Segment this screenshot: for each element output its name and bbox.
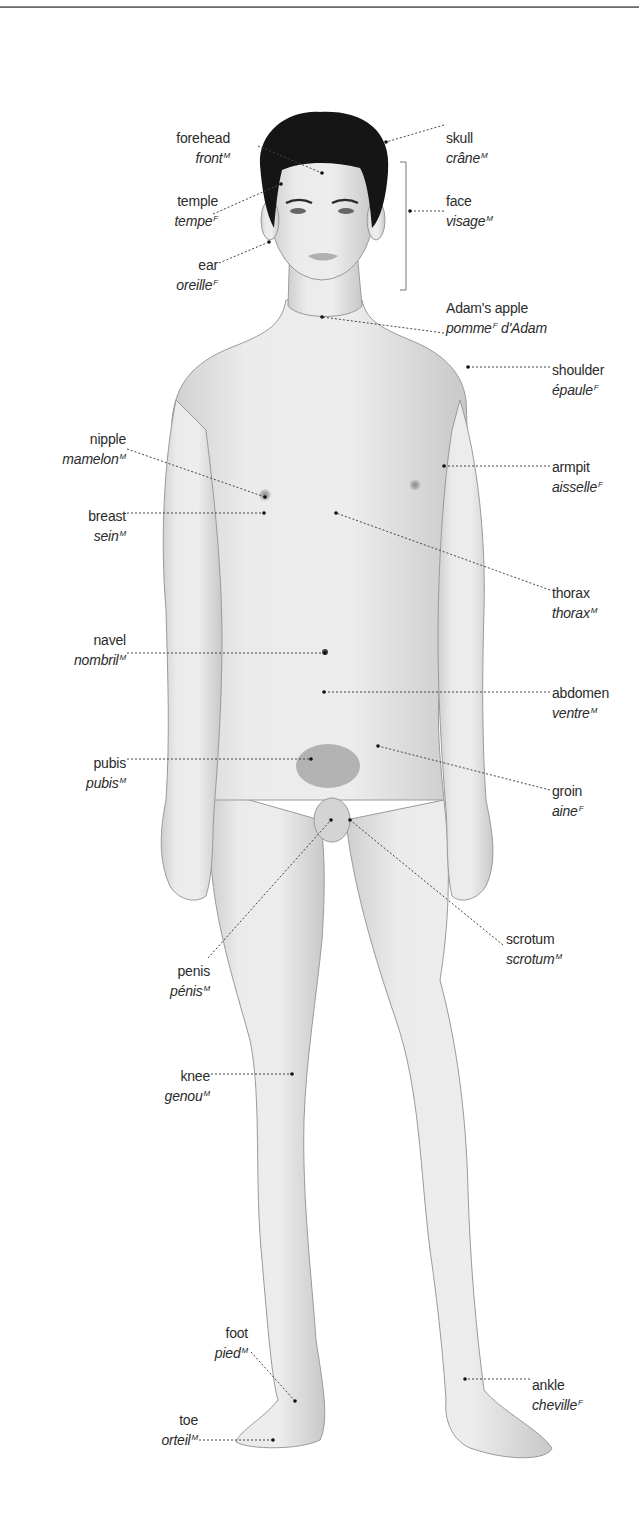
english-term: nipple: [62, 431, 126, 448]
french-term: visageM: [446, 210, 493, 230]
english-term: groin: [552, 783, 583, 800]
point-scrotum: [348, 818, 352, 822]
leader-line-skull: [386, 125, 444, 142]
english-term: Adam's apple: [446, 300, 547, 317]
gender-marker: M: [120, 452, 126, 461]
gender-marker: M: [120, 653, 126, 662]
point-armpit: [442, 464, 446, 468]
english-term: temple: [174, 193, 218, 210]
leader-line-ear: [219, 242, 269, 263]
french-term: pubisM: [86, 772, 126, 792]
french-term: oreilleF: [176, 274, 218, 294]
gender-marker: M: [204, 984, 210, 993]
label-forehead: forehead frontM: [176, 130, 230, 167]
label-ear: ear oreilleF: [176, 257, 218, 294]
label-scrotum: scrotum scrotumM: [506, 931, 562, 968]
label-groin: groin aineF: [552, 783, 583, 820]
point-nipple: [263, 495, 267, 499]
gender-marker: M: [192, 1433, 198, 1442]
label-ankle: ankle chevilleF: [532, 1377, 583, 1414]
gender-marker: F: [213, 214, 218, 223]
english-term: penis: [170, 963, 210, 980]
english-term: breast: [88, 508, 126, 525]
point-penis: [329, 818, 333, 822]
gender-marker: M: [224, 151, 230, 160]
english-term: pubis: [86, 755, 126, 772]
french-term: orteilM: [161, 1429, 198, 1449]
english-term: armpit: [552, 459, 603, 476]
french-term: tempeF: [174, 210, 218, 230]
gender-marker: M: [120, 529, 126, 538]
gender-marker: F: [578, 1398, 583, 1407]
french-term: mamelonM: [62, 448, 126, 468]
label-nipple: nipple mamelonM: [62, 431, 126, 468]
gender-marker: F: [594, 383, 599, 392]
left-leg-shape: [346, 800, 552, 1458]
left-arm-shape: [438, 400, 493, 900]
english-term: thorax: [552, 585, 597, 602]
french-term: aineF: [552, 800, 583, 820]
label-toe: toe orteilM: [161, 1412, 198, 1449]
gender-marker: M: [555, 952, 561, 961]
pubic-hair: [296, 744, 360, 788]
point-abdomen: [322, 690, 326, 694]
english-term: toe: [161, 1412, 198, 1429]
label-knee: knee genouM: [165, 1068, 210, 1105]
french-term: pénisM: [170, 980, 210, 1000]
french-term: frontM: [176, 147, 230, 167]
gender-marker: M: [591, 706, 597, 715]
gender-marker: M: [591, 606, 597, 615]
face-bracket: [400, 162, 406, 290]
gender-marker: F: [579, 804, 584, 813]
point-face: [408, 209, 412, 213]
point-breast: [262, 511, 266, 515]
label-breast: breast seinM: [88, 508, 126, 545]
gender-marker: M: [242, 1346, 248, 1355]
left-eye: [338, 208, 354, 214]
french-term: seinM: [88, 525, 126, 545]
label-thorax: thorax thoraxM: [552, 585, 597, 622]
point-ear: [267, 240, 271, 244]
french-term: crâneM: [446, 147, 488, 167]
point-thorax: [334, 511, 338, 515]
point-foot: [293, 1399, 297, 1403]
label-abdomen: abdomen ventreM: [552, 685, 609, 722]
french-term: épauleF: [552, 379, 604, 399]
french-term: aisselleF: [552, 476, 603, 496]
label-armpit: armpit aisselleF: [552, 459, 603, 496]
point-groin: [376, 744, 380, 748]
english-term: navel: [74, 632, 126, 649]
label-penis: penis pénisM: [170, 963, 210, 1000]
english-term: knee: [165, 1068, 210, 1085]
point-shoulder: [466, 365, 470, 369]
french-term: scrotumM: [506, 948, 562, 968]
point-skull: [384, 140, 388, 144]
english-term: scrotum: [506, 931, 562, 948]
french-term: chevilleF: [532, 1394, 583, 1414]
french-term: pommeF d'Adam: [446, 317, 547, 337]
french-term: thoraxM: [552, 602, 597, 622]
english-term: face: [446, 193, 493, 210]
label-temple: temple tempeF: [174, 193, 218, 230]
english-term: ear: [176, 257, 218, 274]
point-pubis: [309, 757, 313, 761]
label-skull: skull crâneM: [446, 130, 488, 167]
gender-marker: M: [204, 1089, 210, 1098]
english-term: abdomen: [552, 685, 609, 702]
point-temple: [279, 182, 283, 186]
label-face: face visageM: [446, 193, 493, 230]
label-navel: navel nombrilM: [74, 632, 126, 669]
english-term: foot: [215, 1325, 248, 1342]
gender-marker: M: [486, 214, 492, 223]
french-term: genouM: [165, 1085, 210, 1105]
point-knee: [290, 1072, 294, 1076]
point-ankle: [463, 1377, 467, 1381]
gender-marker: M: [481, 151, 487, 160]
left-nipple: [408, 478, 422, 492]
english-term: skull: [446, 130, 488, 147]
french-term: ventreM: [552, 702, 609, 722]
gender-marker: M: [120, 776, 126, 785]
label-shoulder: shoulder épauleF: [552, 362, 604, 399]
french-term: piedM: [215, 1342, 248, 1362]
english-term: ankle: [532, 1377, 583, 1394]
